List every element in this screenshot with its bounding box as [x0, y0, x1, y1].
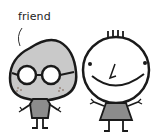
smiling-face — [83, 37, 149, 103]
leg-right — [123, 120, 128, 131]
smiling-character — [83, 30, 149, 131]
friend-character — [10, 40, 76, 128]
friend-shirt — [30, 99, 50, 118]
arm-left — [94, 102, 104, 106]
dress — [100, 103, 132, 120]
eye-right — [143, 61, 147, 65]
cartoon-drawing — [0, 0, 157, 136]
arm-right — [128, 102, 138, 106]
friend-leg-left — [32, 118, 37, 128]
label-pointer-line — [18, 28, 22, 46]
glasses-right-lens — [42, 66, 60, 84]
friend-leg-right — [43, 118, 48, 128]
glasses-left-lens — [18, 66, 36, 84]
leg-left — [104, 120, 109, 131]
eye-left — [88, 62, 92, 66]
illustration-scene: friend — [0, 0, 157, 136]
